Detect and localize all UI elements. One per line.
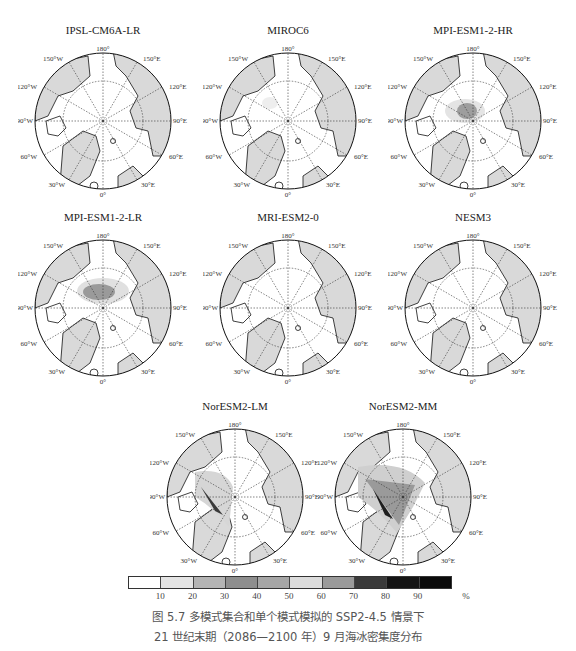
svg-text:150°E: 150°E [275,431,293,439]
colorbar-swatch [420,577,451,588]
colorbar-swatch [161,577,193,588]
svg-text:60°E: 60°E [469,529,483,537]
svg-text:120°E: 120°E [539,83,557,91]
colorbar-tick-label: 80 [381,591,390,601]
svg-text:60°W: 60°W [21,153,38,161]
svg-text:180°: 180° [281,232,295,240]
svg-text:150°E: 150°E [328,242,346,250]
svg-text:180°: 180° [396,421,410,429]
svg-text:30°E: 30°E [511,368,525,376]
svg-text:120°W: 120°W [388,83,407,91]
colorbar-swatch [387,577,419,588]
map-panel-ipsl-cm6a-lr: IPSL-CM6A-LR 180° 0° 90°W 90°E 150°W 150… [18,24,188,204]
svg-text:60°E: 60°E [539,153,553,161]
svg-text:90°W: 90°W [318,493,333,501]
svg-text:150°E: 150°E [513,55,531,63]
colorbar-swatch [226,577,258,588]
svg-text:150°E: 150°E [143,55,161,63]
svg-text:150°E: 150°E [328,55,346,63]
svg-text:90°E: 90°E [173,117,187,125]
map-panel-miroc6: MIROC6 180° 0° 90°W 90°E 150°W 150°E 120… [203,24,373,204]
svg-text:60°E: 60°E [169,153,183,161]
svg-text:30°W: 30°W [49,181,66,189]
polar-map: 180° 0° 90°W 90°E 150°W 150°E 120°W 120°… [18,223,188,393]
svg-text:120°E: 120°E [354,270,372,278]
svg-text:60°W: 60°W [206,153,223,161]
svg-text:30°E: 30°E [326,368,340,376]
figure-caption-line1: 图 5.7 多模式集合和单个模式模拟的 SSP2-4.5 情景下 [0,608,576,624]
panel-title: MRI-ESM2-0 [203,211,373,223]
panel-title: MPI-ESM1-2-HR [388,24,558,36]
svg-text:120°W: 120°W [150,459,169,467]
map-panel-mri-esm2-0: MRI-ESM2-0 180° 0° 90°W 90°E 150°W 150°E… [203,211,373,391]
svg-text:180°: 180° [96,45,110,53]
polar-map: 180° 0° 90°W 90°E 150°W 150°E 120°W 120°… [203,36,373,206]
svg-text:0°: 0° [285,191,292,199]
figure-caption-line2: 21 世纪末期（2086—2100 年）9 月海冰密集度分布 [0,628,576,644]
polar-map: 180° 0° 90°W 90°E 150°W 150°E 120°W 120°… [388,36,558,206]
svg-text:0°: 0° [470,191,477,199]
polar-map: 180° 0° 90°W 90°E 150°W 150°E 120°W 120°… [150,412,320,582]
colorbar-tick-label: 50 [285,591,294,601]
svg-text:30°E: 30°E [273,557,287,565]
polar-map: 180° 0° 90°W 90°E 150°W 150°E 120°W 120°… [18,36,188,206]
svg-text:90°E: 90°E [358,304,372,312]
svg-text:30°W: 30°W [419,181,436,189]
colorbar [128,576,452,589]
svg-text:30°W: 30°W [419,368,436,376]
svg-text:60°E: 60°E [354,153,368,161]
map-panel-nesm3: NESM3 180° 0° 90°W 90°E 150°W 150°E 120°… [388,211,558,391]
svg-text:120°W: 120°W [203,270,222,278]
svg-text:150°W: 150°W [228,55,248,63]
svg-text:150°W: 150°W [413,55,433,63]
svg-text:180°: 180° [228,421,242,429]
svg-text:60°E: 60°E [354,340,368,348]
colorbar-swatch [258,577,290,588]
svg-text:30°E: 30°E [441,557,455,565]
panel-title: IPSL-CM6A-LR [18,24,188,36]
svg-text:60°W: 60°W [153,529,170,537]
map-panel-noresm2-mm: NorESM2-MM 180° 0° 90°W 90°E 150°W 150°E… [318,400,488,580]
svg-text:120°W: 120°W [203,83,222,91]
map-panel-noresm2-lm: NorESM2-LM 180° 0° 90°W 90°E 150°W 150°E… [150,400,320,580]
colorbar-swatch [355,577,387,588]
svg-text:90°W: 90°W [203,117,218,125]
svg-text:60°E: 60°E [169,340,183,348]
panel-title: NorESM2-MM [318,400,488,412]
svg-text:150°E: 150°E [443,431,461,439]
colorbar-tick-label: 90 [413,591,422,601]
svg-text:150°W: 150°W [228,242,248,250]
svg-text:90°E: 90°E [173,304,187,312]
svg-text:120°E: 120°E [169,270,187,278]
svg-text:150°W: 150°W [43,55,63,63]
svg-text:60°E: 60°E [539,340,553,348]
svg-text:120°W: 120°W [388,270,407,278]
panel-title: NorESM2-LM [150,400,320,412]
svg-text:150°W: 150°W [43,242,63,250]
svg-text:150°W: 150°W [413,242,433,250]
svg-text:30°W: 30°W [234,181,251,189]
svg-text:60°E: 60°E [301,529,315,537]
svg-text:0°: 0° [232,567,239,575]
svg-text:30°W: 30°W [181,557,198,565]
colorbar-tick-label: 40 [252,591,261,601]
svg-text:30°E: 30°E [326,181,340,189]
colorbar-swatch [323,577,355,588]
panel-title: MIROC6 [203,24,373,36]
colorbar-swatch [194,577,226,588]
svg-text:120°E: 120°E [354,83,372,91]
svg-text:150°E: 150°E [513,242,531,250]
svg-text:90°E: 90°E [543,304,557,312]
svg-text:150°W: 150°W [175,431,195,439]
colorbar-tick-label: 60 [317,591,326,601]
svg-text:180°: 180° [466,45,480,53]
svg-text:120°W: 120°W [318,459,337,467]
svg-text:180°: 180° [281,45,295,53]
svg-text:90°W: 90°W [150,493,165,501]
colorbar-swatch [129,577,161,588]
svg-text:90°W: 90°W [18,117,33,125]
svg-text:90°W: 90°W [203,304,218,312]
svg-text:30°W: 30°W [49,368,66,376]
svg-text:30°E: 30°E [511,181,525,189]
polar-map: 180° 0° 90°W 90°E 150°W 150°E 120°W 120°… [203,223,373,393]
